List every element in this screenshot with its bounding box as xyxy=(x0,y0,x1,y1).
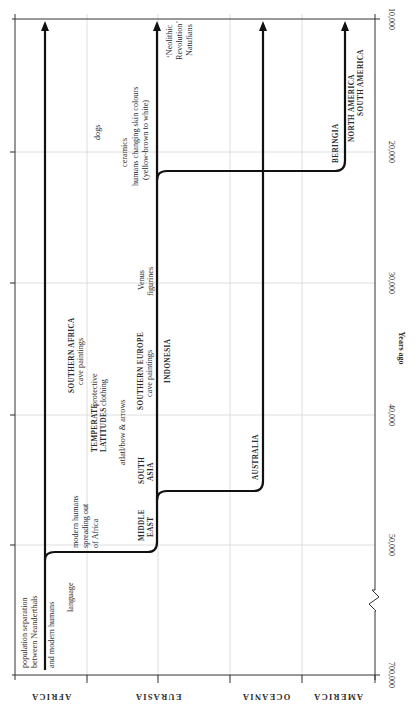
event-south-asia-line2: ASIA xyxy=(147,462,155,481)
migration-paths xyxy=(45,26,345,670)
event-temperate-latitudes: TEMPERATE xyxy=(91,403,99,452)
region-labels: AFRICA EURASIA OCEANIA AMERICA xyxy=(31,692,363,701)
arrow-up-icon xyxy=(341,21,349,31)
region-eurasia: EURASIA xyxy=(135,692,182,701)
tick-700000: 700,000 xyxy=(387,662,396,688)
event-venus: Venus xyxy=(137,270,146,290)
event-neolithic-line3: Natufians xyxy=(185,24,194,56)
event-indonesia: INDONESIA xyxy=(164,338,172,383)
arrow-up-icon xyxy=(259,21,267,31)
tick-10000: 10,000 xyxy=(387,8,396,30)
event-south-america: SOUTH AMERICA xyxy=(357,49,365,116)
event-atlatl: atlatl/bow & arrows xyxy=(118,400,127,465)
event-population-separation-line2: between Neanderthals xyxy=(30,595,39,668)
event-middle-east: MIDDLE xyxy=(138,509,146,541)
event-south-asia: SOUTH xyxy=(138,457,146,484)
event-southern-europe: SOUTHERN EUROPE xyxy=(137,332,145,410)
event-middle-east-line2: EAST xyxy=(147,517,155,537)
tick-40000: 40,000 xyxy=(387,404,396,426)
oceania-annotations: AUSTRALIA xyxy=(252,434,260,480)
region-africa: AFRICA xyxy=(31,692,71,701)
event-skin-colours: humans changing skin colours xyxy=(131,87,140,186)
event-southern-africa-cave-paintings: cave paintings xyxy=(76,338,85,385)
event-venus-line2: figurines xyxy=(146,267,155,296)
event-modern-humans-line2: spreading out xyxy=(81,503,90,548)
event-language: language xyxy=(66,582,75,612)
event-protective-clothing: protective xyxy=(90,373,99,406)
event-ceramics: ceramics xyxy=(120,138,129,167)
event-north-america: NORTH AMERICA xyxy=(348,74,356,142)
event-neolithic: ‘Neolithic xyxy=(165,24,174,58)
america-annotations: BERINGIA NORTH AMERICA SOUTH AMERICA xyxy=(332,49,365,163)
event-neolithic-line2: Revolution’ xyxy=(175,21,184,60)
africa-annotations: population separation between Neandertha… xyxy=(20,87,150,668)
event-population-separation: population separation xyxy=(20,597,29,668)
event-population-separation-line3: and modern humans xyxy=(47,602,56,668)
eurasia-annotations: MIDDLE EAST SOUTH ASIA SOUTHERN EUROPE c… xyxy=(137,21,194,541)
arrow-up-icon xyxy=(41,21,49,31)
gridlines xyxy=(12,14,375,680)
region-oceania: OCEANIA xyxy=(242,692,291,701)
event-beringia: BERINGIA xyxy=(332,123,340,163)
event-dogs: dogs xyxy=(93,125,102,140)
arrow-up-icon xyxy=(153,21,161,31)
event-skin-colours-line2: (yellow-brown to white) xyxy=(141,100,150,180)
human-migration-timeline-diagram: 10,000 20,000 30,000 40,000 50,000 700,0… xyxy=(0,0,420,708)
y-axis-ticks: 10,000 20,000 30,000 40,000 50,000 700,0… xyxy=(387,8,406,688)
tick-20000: 20,000 xyxy=(387,141,396,163)
event-modern-humans-line3: of Africa xyxy=(91,518,100,548)
event-australia: AUSTRALIA xyxy=(252,434,260,480)
tick-30000: 30,000 xyxy=(387,272,396,294)
event-southern-europe-cave-paintings: cave paintings xyxy=(145,350,154,397)
y-axis-title: Years ago xyxy=(397,331,406,364)
event-southern-africa: SOUTHERN AFRICA xyxy=(68,317,76,393)
event-temperate-latitudes-line2: LATITUDES xyxy=(100,407,108,452)
tick-50000: 50,000 xyxy=(387,534,396,556)
region-america: AMERICA xyxy=(313,692,363,701)
event-modern-humans: modern humans xyxy=(71,495,80,548)
event-protective-clothing-line2: clothing xyxy=(99,379,108,406)
